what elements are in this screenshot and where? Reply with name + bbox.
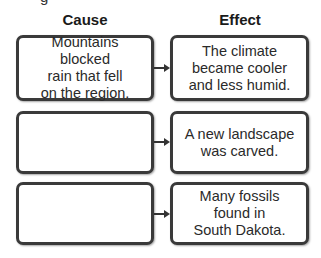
arrow-icon	[154, 210, 170, 218]
effect-column-header: Effect	[170, 11, 310, 28]
cause-box-1: Mountains blocked rain that fell on the …	[16, 35, 154, 101]
effect-box-1: The climate became cooler and less humid…	[170, 35, 309, 101]
cropped-heading-fragment: g	[40, 0, 48, 5]
cause-box-3-empty[interactable]	[16, 182, 154, 245]
effect-box-3: Many fossils found in South Dakota.	[170, 182, 309, 245]
arrow-icon	[154, 64, 170, 72]
arrow-icon	[154, 138, 170, 146]
cause-box-2-empty[interactable]	[16, 111, 154, 174]
cause-column-header: Cause	[15, 11, 155, 28]
effect-box-2: A new landscape was carved.	[170, 111, 309, 174]
